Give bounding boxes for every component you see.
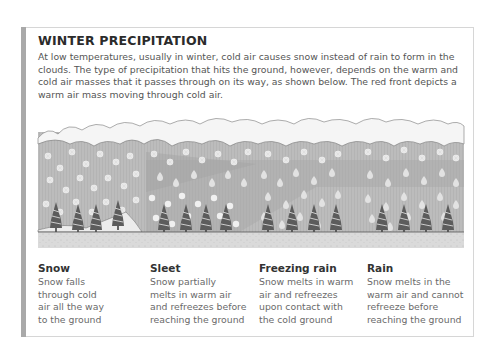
- caption-text: Snow partially melts in warm air and ref…: [150, 276, 260, 326]
- caption-rain: Rain Snow melts in the warm air and cann…: [367, 262, 477, 326]
- caption-line: melts in warm air: [150, 289, 231, 300]
- caption-line: Snow melts in the: [367, 276, 451, 287]
- caption-line: refreeze before: [367, 301, 438, 312]
- caption-line: the cold ground: [259, 314, 332, 325]
- caption-heading: Rain: [367, 262, 477, 275]
- caption-line: to the ground: [38, 314, 101, 325]
- caption-sleet: Sleet Snow partially melts in warm air a…: [150, 262, 260, 326]
- caption-heading: Freezing rain: [259, 262, 369, 275]
- caption-line: air and refreezes: [259, 289, 338, 300]
- precipitation-illustration: [36, 112, 466, 252]
- caption-line: Snow partially: [150, 276, 216, 287]
- caption-line: upon contact with: [259, 301, 343, 312]
- caption-text: Snow melts in warm air and refreezes upo…: [259, 276, 369, 326]
- caption-line: and refreezes before: [150, 301, 246, 312]
- accent-bar: [21, 27, 26, 337]
- caption-line: through cold: [38, 289, 97, 300]
- caption-line: Snow falls: [38, 276, 85, 287]
- caption-freezing-rain: Freezing rain Snow melts in warm air and…: [259, 262, 369, 326]
- caption-line: Snow melts in warm: [259, 276, 353, 287]
- intro-paragraph: At low temperatures, usually in winter, …: [38, 51, 458, 101]
- caption-line: air all the way: [38, 301, 104, 312]
- caption-snow: Snow Snow falls through cold air all the…: [38, 262, 148, 326]
- caption-line: warm air and cannot: [367, 289, 463, 300]
- caption-heading: Sleet: [150, 262, 260, 275]
- caption-text: Snow melts in the warm air and cannot re…: [367, 276, 477, 326]
- caption-heading: Snow: [38, 262, 148, 275]
- caption-text: Snow falls through cold air all the way …: [38, 276, 148, 326]
- caption-line: reaching the ground: [150, 314, 244, 325]
- caption-line: reaching the ground: [367, 314, 461, 325]
- panel-title: WINTER PRECIPITATION: [38, 33, 207, 48]
